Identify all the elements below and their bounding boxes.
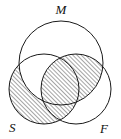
set-label-s: S <box>9 120 16 135</box>
set-label-m: M <box>55 2 68 17</box>
set-label-f: F <box>99 121 109 136</box>
venn-diagram-svg: M S F <box>0 0 121 139</box>
venn-diagram-figure: M S F <box>0 0 121 139</box>
